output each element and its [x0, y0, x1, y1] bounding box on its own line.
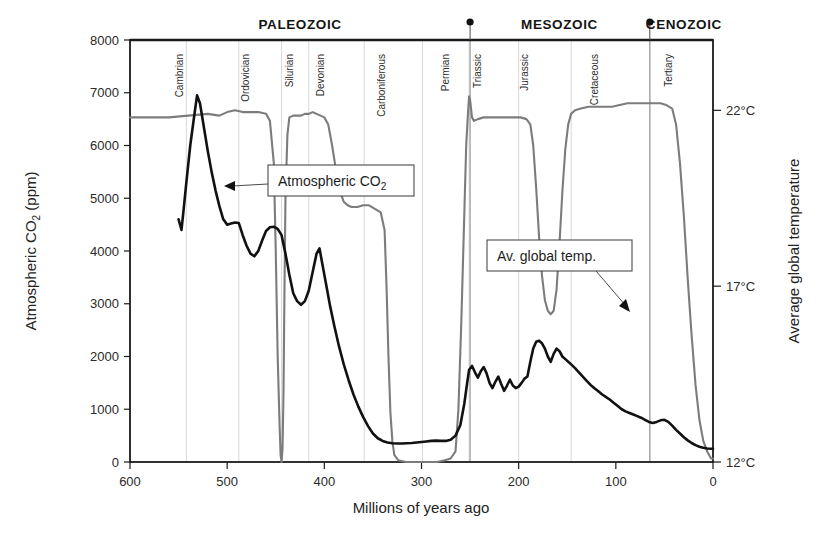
y-left-tick-label: 7000 [90, 85, 119, 100]
chart-background [0, 0, 831, 535]
x-tick-label: 0 [709, 474, 716, 489]
period-label-cambrian: Cambrian [174, 54, 185, 97]
period-label-ordovician: Ordovician [240, 54, 251, 102]
y-left-tick-label: 1000 [90, 402, 119, 417]
y-right-tick-label: 12°C [726, 455, 755, 470]
y-right-tick-label: 17°C [726, 279, 755, 294]
y-right-tick-label: 22°C [726, 103, 755, 118]
y-left-tick-label: 5000 [90, 191, 119, 206]
callout-temp-label: Av. global temp. [497, 248, 596, 264]
y-left-tick-label: 3000 [90, 296, 119, 311]
period-label-cretaceous: Cretaceous [589, 54, 600, 105]
y-left-tick-label: 8000 [90, 33, 119, 48]
period-label-devonian: Devonian [315, 54, 326, 96]
era-label-cenozoic: CENOZOIC [646, 17, 722, 32]
x-axis-title: Millions of years ago [353, 499, 490, 516]
period-label-carboniferous: Carboniferous [376, 54, 387, 117]
x-tick-label: 100 [605, 474, 627, 489]
x-tick-label: 600 [119, 474, 141, 489]
chart-figure: PALEOZOICMESOZOICCENOZOIC CambrianOrdovi… [0, 0, 831, 535]
period-label-permian: Permian [440, 54, 451, 91]
era-boundary-dot [466, 18, 473, 25]
period-label-silurian: Silurian [284, 54, 295, 87]
period-label-triassic: Triassic [472, 54, 483, 88]
x-tick-label: 200 [508, 474, 530, 489]
y-left-tick-label: 2000 [90, 349, 119, 364]
period-label-tertiary: Tertiary [663, 54, 674, 87]
era-label-paleozoic: PALEOZOIC [258, 17, 341, 32]
era-label-mesozoic: MESOZOIC [521, 17, 598, 32]
y-left-tick-label: 0 [112, 455, 119, 470]
x-tick-label: 500 [216, 474, 238, 489]
y-axis-right-title: Average global temperature [785, 159, 802, 344]
x-tick-label: 400 [313, 474, 335, 489]
period-label-jurassic: Jurassic [519, 54, 530, 91]
x-tick-label: 300 [411, 474, 433, 489]
chart-svg: PALEOZOICMESOZOICCENOZOIC CambrianOrdovi… [0, 0, 831, 535]
y-left-tick-label: 4000 [90, 244, 119, 259]
y-left-tick-label: 6000 [90, 138, 119, 153]
